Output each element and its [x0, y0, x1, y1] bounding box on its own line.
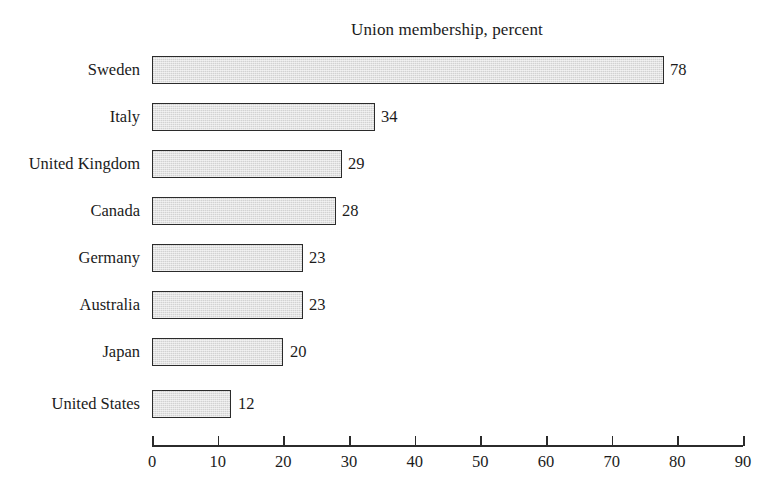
bar[interactable] — [152, 244, 303, 272]
bar-row: Australia 23 — [0, 291, 780, 319]
x-axis-tick-label: 20 — [253, 452, 313, 472]
x-axis-tick — [743, 436, 745, 446]
x-axis-tick-label: 0 — [122, 452, 182, 472]
x-axis-tick-label: 60 — [516, 452, 576, 472]
category-label-wrap: Sweden — [0, 56, 140, 84]
plot-area: Sweden 78 Italy 34 United Kingdom 29 Can… — [0, 0, 780, 500]
x-axis-tick-label: 40 — [385, 452, 445, 472]
bar[interactable] — [152, 390, 231, 418]
bar[interactable] — [152, 150, 342, 178]
category-label: Australia — [0, 291, 140, 319]
category-label-wrap: Canada — [0, 197, 140, 225]
x-axis-tick-label: 30 — [319, 452, 379, 472]
category-label: United States — [0, 390, 140, 418]
x-axis-tick — [612, 436, 614, 446]
bar-row: United States 12 — [0, 390, 780, 418]
bar-row: Canada 28 — [0, 197, 780, 225]
category-label: United Kingdom — [0, 150, 140, 178]
x-axis-tick — [283, 436, 285, 446]
bar-row: Sweden 78 — [0, 56, 780, 84]
x-axis-tick — [349, 436, 351, 446]
category-label-wrap: Italy — [0, 103, 140, 131]
category-label-wrap: Australia — [0, 291, 140, 319]
x-axis-tick — [152, 436, 154, 446]
bar-row: Italy 34 — [0, 103, 780, 131]
bar-row: Germany 23 — [0, 244, 780, 272]
x-axis-tick — [480, 436, 482, 446]
bar-value-label: 12 — [238, 390, 255, 418]
bar-row: United Kingdom 29 — [0, 150, 780, 178]
bar[interactable] — [152, 338, 283, 366]
bar-row: Japan 20 — [0, 338, 780, 366]
bar-value-label: 23 — [309, 244, 326, 272]
category-label-wrap: United Kingdom — [0, 150, 140, 178]
bar-value-label: 34 — [381, 103, 398, 131]
bar[interactable] — [152, 103, 375, 131]
x-axis-line — [152, 445, 743, 447]
x-axis-tick-label: 80 — [647, 452, 707, 472]
bar-chart: Union membership, percent Sweden 78 Ital… — [0, 0, 780, 500]
x-axis-tick — [546, 436, 548, 446]
x-axis-tick-label: 10 — [188, 452, 248, 472]
bar-value-label: 78 — [670, 56, 687, 84]
bar[interactable] — [152, 291, 303, 319]
category-label-wrap: Japan — [0, 338, 140, 366]
category-label: Canada — [0, 197, 140, 225]
category-label: Sweden — [0, 56, 140, 84]
x-axis-tick-label: 90 — [713, 452, 773, 472]
bar-value-label: 29 — [348, 150, 365, 178]
x-axis-tick-label: 70 — [582, 452, 642, 472]
x-axis-tick — [218, 436, 220, 446]
bar[interactable] — [152, 56, 664, 84]
bar-value-label: 23 — [309, 291, 326, 319]
category-label: Japan — [0, 338, 140, 366]
category-label: Italy — [0, 103, 140, 131]
x-axis-tick — [415, 436, 417, 446]
category-label: Germany — [0, 244, 140, 272]
category-label-wrap: United States — [0, 390, 140, 418]
x-axis-tick-label: 50 — [450, 452, 510, 472]
bar-value-label: 20 — [290, 338, 307, 366]
bar[interactable] — [152, 197, 336, 225]
x-axis-tick — [677, 436, 679, 446]
category-label-wrap: Germany — [0, 244, 140, 272]
bar-value-label: 28 — [342, 197, 359, 225]
